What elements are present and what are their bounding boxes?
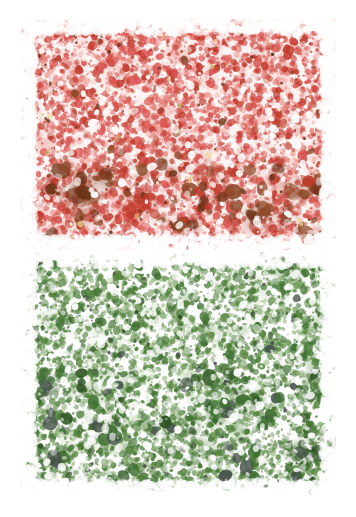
bottom-panel-green-stain: [21, 252, 336, 495]
top-panel-canvas: [21, 19, 336, 250]
figure-root: [0, 0, 356, 517]
bottom-panel-canvas: [21, 252, 336, 495]
top-panel-pink-stain: [21, 19, 336, 250]
